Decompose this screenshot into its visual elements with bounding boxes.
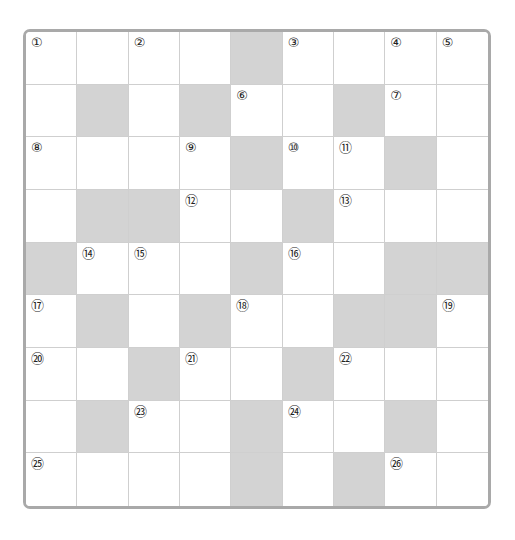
answer-cell[interactable] <box>334 401 385 454</box>
answer-cell[interactable]: ㉓ <box>129 401 180 454</box>
block-cell <box>231 243 282 296</box>
crossword-board: ①②③④⑤⑥⑦⑧⑨⑩⑪⑫⑬⑭⑮⑯⑰⑱⑲⑳㉑㉒㉓㉔㉕㉖ <box>23 29 491 509</box>
clue-number: ⑫ <box>185 194 198 207</box>
answer-cell[interactable] <box>437 348 488 401</box>
crossword-grid: ①②③④⑤⑥⑦⑧⑨⑩⑪⑫⑬⑭⑮⑯⑰⑱⑲⑳㉑㉒㉓㉔㉕㉖ <box>26 32 488 506</box>
answer-cell[interactable]: ⑰ <box>26 295 77 348</box>
answer-cell[interactable] <box>77 348 128 401</box>
answer-cell[interactable]: ⑩ <box>283 137 334 190</box>
answer-cell[interactable]: ⑤ <box>437 32 488 85</box>
answer-cell[interactable] <box>334 32 385 85</box>
answer-cell[interactable]: ⑨ <box>180 137 231 190</box>
answer-cell[interactable]: ㉖ <box>385 453 436 506</box>
clue-number: ⑥ <box>236 89 248 102</box>
answer-cell[interactable] <box>129 453 180 506</box>
clue-number: ③ <box>288 36 300 49</box>
answer-cell[interactable] <box>231 348 282 401</box>
block-cell <box>231 137 282 190</box>
clue-number: ⑱ <box>236 299 249 312</box>
clue-number: ⑤ <box>442 36 454 49</box>
answer-cell[interactable]: ⑫ <box>180 190 231 243</box>
answer-cell[interactable]: ⑭ <box>77 243 128 296</box>
answer-cell[interactable] <box>437 401 488 454</box>
answer-cell[interactable] <box>180 453 231 506</box>
answer-cell[interactable]: ⑲ <box>437 295 488 348</box>
answer-cell[interactable] <box>26 401 77 454</box>
answer-cell[interactable]: ⑥ <box>231 85 282 138</box>
clue-number: ㉑ <box>185 352 198 365</box>
answer-cell[interactable]: ⑳ <box>26 348 77 401</box>
clue-number: ⑨ <box>185 141 197 154</box>
clue-number: ⑩ <box>288 141 300 154</box>
block-cell <box>77 85 128 138</box>
answer-cell[interactable]: ⑯ <box>283 243 334 296</box>
answer-cell[interactable]: ⑮ <box>129 243 180 296</box>
clue-number: ㉓ <box>134 405 147 418</box>
answer-cell[interactable] <box>231 190 282 243</box>
answer-cell[interactable] <box>283 85 334 138</box>
block-cell <box>231 453 282 506</box>
block-cell <box>77 190 128 243</box>
answer-cell[interactable] <box>180 401 231 454</box>
answer-cell[interactable]: ⑱ <box>231 295 282 348</box>
answer-cell[interactable] <box>77 32 128 85</box>
block-cell <box>231 401 282 454</box>
answer-cell[interactable] <box>180 243 231 296</box>
block-cell <box>334 85 385 138</box>
answer-cell[interactable] <box>129 85 180 138</box>
block-cell <box>180 85 231 138</box>
clue-number: ㉖ <box>390 457 403 470</box>
answer-cell[interactable] <box>26 190 77 243</box>
clue-number: ⑯ <box>288 247 301 260</box>
answer-cell[interactable] <box>437 137 488 190</box>
answer-cell[interactable] <box>283 453 334 506</box>
clue-number: ⑬ <box>339 194 352 207</box>
answer-cell[interactable] <box>129 295 180 348</box>
block-cell <box>385 137 436 190</box>
answer-cell[interactable]: ⑪ <box>334 137 385 190</box>
answer-cell[interactable] <box>180 32 231 85</box>
clue-number: ⑲ <box>442 299 455 312</box>
answer-cell[interactable]: ② <box>129 32 180 85</box>
answer-cell[interactable] <box>385 190 436 243</box>
answer-cell[interactable]: ④ <box>385 32 436 85</box>
clue-number: ㉔ <box>288 405 301 418</box>
block-cell <box>129 348 180 401</box>
block-cell <box>334 295 385 348</box>
answer-cell[interactable] <box>26 85 77 138</box>
block-cell <box>26 243 77 296</box>
block-cell <box>385 401 436 454</box>
block-cell <box>437 243 488 296</box>
answer-cell[interactable]: ㉒ <box>334 348 385 401</box>
answer-cell[interactable] <box>437 190 488 243</box>
block-cell <box>385 295 436 348</box>
block-cell <box>283 348 334 401</box>
answer-cell[interactable]: ⑧ <box>26 137 77 190</box>
answer-cell[interactable]: ㉕ <box>26 453 77 506</box>
clue-number: ⑰ <box>31 299 44 312</box>
answer-cell[interactable]: ⑬ <box>334 190 385 243</box>
block-cell <box>385 243 436 296</box>
block-cell <box>334 453 385 506</box>
answer-cell[interactable] <box>283 295 334 348</box>
answer-cell[interactable]: ③ <box>283 32 334 85</box>
answer-cell[interactable] <box>77 453 128 506</box>
answer-cell[interactable] <box>437 85 488 138</box>
clue-number: ㉕ <box>31 457 44 470</box>
clue-number: ⑧ <box>31 141 43 154</box>
clue-number: ㉒ <box>339 352 352 365</box>
answer-cell[interactable]: ① <box>26 32 77 85</box>
answer-cell[interactable]: ⑦ <box>385 85 436 138</box>
block-cell <box>77 295 128 348</box>
block-cell <box>231 32 282 85</box>
answer-cell[interactable]: ㉔ <box>283 401 334 454</box>
answer-cell[interactable] <box>77 137 128 190</box>
answer-cell[interactable]: ㉑ <box>180 348 231 401</box>
answer-cell[interactable] <box>129 137 180 190</box>
answer-cell[interactable] <box>334 243 385 296</box>
clue-number: ④ <box>390 36 402 49</box>
answer-cell[interactable] <box>385 348 436 401</box>
answer-cell[interactable] <box>437 453 488 506</box>
clue-number: ② <box>134 36 146 49</box>
clue-number: ⑦ <box>390 89 402 102</box>
